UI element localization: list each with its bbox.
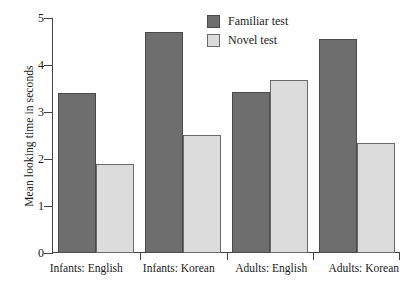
chart-legend: Familiar test Novel test	[207, 12, 288, 50]
legend-label-novel: Novel test	[228, 33, 277, 48]
bar[interactable]	[232, 92, 270, 253]
legend-item-familiar: Familiar test	[207, 12, 288, 31]
x-axis-group-separator	[399, 253, 400, 260]
bar-group	[313, 18, 400, 253]
y-axis-tick	[44, 65, 52, 66]
x-axis-group-separator	[313, 253, 314, 260]
legend-swatch-familiar-icon	[207, 15, 220, 28]
bar-group	[140, 18, 227, 253]
y-axis-tick	[44, 18, 52, 19]
bar-pair	[140, 18, 227, 253]
bar[interactable]	[270, 80, 308, 253]
x-axis-label: Infants: English	[40, 262, 133, 274]
y-axis-tick-label: 4	[22, 59, 44, 71]
bar[interactable]	[319, 39, 357, 253]
bar-groups	[53, 18, 400, 253]
legend-item-novel: Novel test	[207, 31, 288, 50]
x-axis-label: Adults: Korean	[318, 262, 410, 274]
bar[interactable]	[357, 143, 395, 253]
bar-chart: Mean looking time in seconds 012345 Infa…	[0, 0, 410, 290]
bar-group	[227, 18, 314, 253]
y-axis-tick-label: 5	[22, 12, 44, 24]
legend-swatch-novel-icon	[207, 34, 220, 47]
y-axis-tick-label: 0	[22, 247, 44, 259]
legend-label-familiar: Familiar test	[228, 14, 288, 29]
bar[interactable]	[183, 135, 221, 253]
bar[interactable]	[58, 93, 96, 253]
plot-area: 012345	[52, 18, 400, 253]
y-axis-tick	[44, 159, 52, 160]
bar-pair	[53, 18, 140, 253]
x-axis-label: Adults: English	[225, 262, 318, 274]
bar[interactable]	[96, 164, 134, 253]
y-axis-tick	[44, 253, 52, 254]
y-axis-tick-label: 2	[22, 153, 44, 165]
bar-pair	[313, 18, 400, 253]
y-axis-tick	[44, 206, 52, 207]
bar-pair	[227, 18, 314, 253]
x-axis-labels: Infants: EnglishInfants: KoreanAdults: E…	[40, 262, 410, 274]
x-axis-label: Infants: Korean	[133, 262, 226, 274]
bar[interactable]	[145, 32, 183, 253]
y-axis-tick-label: 3	[22, 106, 44, 118]
y-axis-tick	[44, 112, 52, 113]
bar-group	[53, 18, 140, 253]
x-axis-group-separator	[140, 253, 141, 260]
x-axis-group-separator	[227, 253, 228, 260]
y-axis-tick-label: 1	[22, 200, 44, 212]
